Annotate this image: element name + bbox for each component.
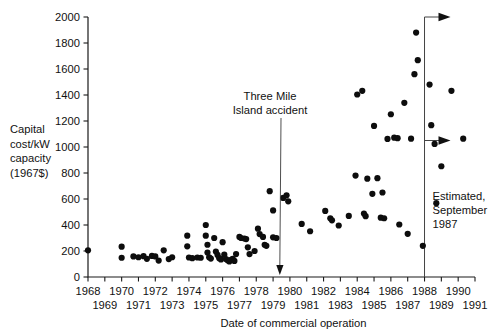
data-point <box>211 235 217 241</box>
y-tick-label: 400 <box>61 219 80 231</box>
y-tick-label: 1400 <box>55 89 80 101</box>
data-point <box>411 71 417 77</box>
y-tick-label: 1000 <box>55 141 80 153</box>
y-axis-ticks: 0200400600800100012001400160018002000 <box>55 11 88 283</box>
data-points <box>85 29 466 264</box>
y-tick-label: 0 <box>74 271 80 283</box>
data-point <box>184 243 190 249</box>
data-point <box>364 176 370 182</box>
data-point <box>388 111 394 117</box>
x-tick-label-upper: 1990 <box>446 285 471 297</box>
data-point <box>426 82 432 88</box>
data-point <box>405 231 411 237</box>
capital-cost-scatter-chart: 0200400600800100012001400160018002000196… <box>0 0 491 333</box>
data-point <box>119 244 125 250</box>
x-tick-label-lower: 1971 <box>126 299 151 311</box>
y-tick-label: 1200 <box>55 115 80 127</box>
data-point <box>363 213 369 219</box>
y-tick-label: 1800 <box>55 37 80 49</box>
data-point <box>371 123 377 129</box>
data-point <box>161 247 167 253</box>
data-point <box>413 29 419 35</box>
data-point <box>329 217 335 223</box>
annotation-three-mile-island: Three MileIsland accident <box>233 90 309 275</box>
data-point <box>428 122 434 128</box>
data-point <box>359 88 365 94</box>
x-tick-label-lower: 1981 <box>294 299 319 311</box>
y-axis-title-line: Capital <box>10 123 45 135</box>
y-tick-label: 600 <box>61 193 80 205</box>
y-tick-label: 800 <box>61 167 80 179</box>
y-tick-label: 1600 <box>55 63 80 75</box>
data-point <box>396 221 402 227</box>
x-tick-label-lower: 1989 <box>429 299 454 311</box>
data-point <box>245 244 251 250</box>
data-point <box>460 136 466 142</box>
x-tick-label-lower: 1969 <box>92 299 117 311</box>
data-point <box>203 233 209 239</box>
x-tick-label-lower: 1979 <box>261 299 286 311</box>
data-point <box>448 88 454 94</box>
x-tick-label-lower: 1977 <box>227 299 252 311</box>
annotation-leader-line <box>280 118 281 266</box>
y-axis-title-line: capacity <box>10 152 51 164</box>
data-point <box>263 243 269 249</box>
data-point <box>346 213 352 219</box>
data-point <box>251 248 257 254</box>
data-point <box>322 208 328 214</box>
x-tick-label-upper: 1968 <box>76 285 101 297</box>
annotation-label-line: September <box>433 204 488 216</box>
data-point <box>231 258 237 264</box>
data-point <box>408 136 414 142</box>
data-point <box>415 57 421 63</box>
y-axis-title-line: cost/kW <box>10 138 50 150</box>
data-point <box>352 173 358 179</box>
data-point <box>395 135 401 141</box>
annotation-label-line: Estimated, <box>433 190 486 202</box>
data-point <box>208 255 214 261</box>
x-tick-label-upper: 1976 <box>210 285 235 297</box>
data-point <box>203 222 209 228</box>
data-point <box>243 236 249 242</box>
data-point <box>384 136 390 142</box>
annotation-label-line: Island accident <box>233 104 309 116</box>
annotation-label-line: Three Mile <box>244 90 297 102</box>
data-point <box>369 191 375 197</box>
x-tick-label-upper: 1986 <box>378 285 403 297</box>
data-point <box>283 192 289 198</box>
chart-canvas: 0200400600800100012001400160018002000196… <box>0 0 491 333</box>
data-point <box>285 198 291 204</box>
x-tick-label-lower: 1973 <box>160 299 185 311</box>
data-point <box>307 228 313 234</box>
data-point <box>374 175 380 181</box>
data-point <box>267 188 273 194</box>
data-point <box>379 189 385 195</box>
data-point <box>273 235 279 241</box>
data-point <box>255 226 261 232</box>
x-tick-label-upper: 1970 <box>109 285 134 297</box>
x-tick-label-lower: 1975 <box>193 299 218 311</box>
x-tick-label-upper: 1982 <box>311 285 336 297</box>
y-axis-title: Capitalcost/kWcapacity(1967$) <box>10 123 51 179</box>
x-tick-label-lower: 1987 <box>395 299 420 311</box>
data-point <box>401 100 407 106</box>
x-tick-label-upper: 1984 <box>345 285 370 297</box>
data-point <box>184 233 190 239</box>
data-point <box>420 243 426 249</box>
x-tick-label-upper: 1978 <box>244 285 269 297</box>
data-point <box>204 242 210 248</box>
data-point <box>85 247 91 253</box>
y-tick-label: 2000 <box>55 11 80 23</box>
x-tick-label-upper: 1988 <box>412 285 437 297</box>
data-point <box>119 255 125 261</box>
data-point <box>260 234 266 240</box>
reference-arrow-head <box>439 136 451 144</box>
reference-arrow-head <box>439 13 451 21</box>
data-point <box>438 163 444 169</box>
data-point <box>169 254 175 260</box>
annotation-estimated-date: Estimated,September1987 <box>433 190 488 230</box>
annotation-arrow-head <box>276 265 283 275</box>
x-tick-label-upper: 1974 <box>177 285 202 297</box>
data-point <box>354 91 360 97</box>
annotation-label-line: 1987 <box>433 218 458 230</box>
